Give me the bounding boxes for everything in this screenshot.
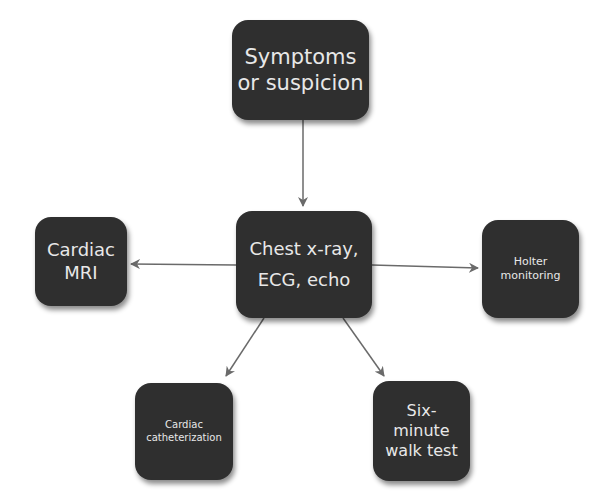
node-chest-xray-ecg-echo: Chest x-ray, ECG, echo: [236, 211, 372, 318]
edge-tests-to-mri: [131, 264, 236, 265]
node-label-line: monitoring: [500, 269, 560, 283]
node-cardiac-catheterization: Cardiac catheterization: [135, 383, 233, 480]
node-symptoms-or-suspicion: Symptoms or suspicion: [232, 20, 369, 120]
edge-tests-to-walk: [343, 318, 384, 376]
node-label-line: Six-: [385, 401, 457, 421]
node-label-line: Chest x-ray,: [249, 234, 358, 265]
node-label-line: MRI: [47, 262, 115, 285]
node-label-line: Cardiac: [146, 419, 222, 432]
node-label-line: or suspicion: [237, 70, 363, 96]
node-label-line: Symptoms: [237, 44, 363, 70]
edge-tests-to-cath: [226, 318, 264, 376]
node-label-line: minute: [385, 421, 457, 441]
node-label-line: ECG, echo: [249, 265, 358, 296]
edge-tests-to-holter: [372, 265, 478, 268]
node-label-line: walk test: [385, 441, 457, 461]
node-label-line: catheterization: [146, 432, 222, 445]
node-six-minute-walk-test: Six- minute walk test: [373, 381, 470, 481]
node-cardiac-mri: Cardiac MRI: [35, 217, 127, 306]
node-label-line: Holter: [500, 255, 560, 269]
node-holter-monitoring: Holter monitoring: [482, 220, 579, 318]
node-label-line: Cardiac: [47, 239, 115, 262]
